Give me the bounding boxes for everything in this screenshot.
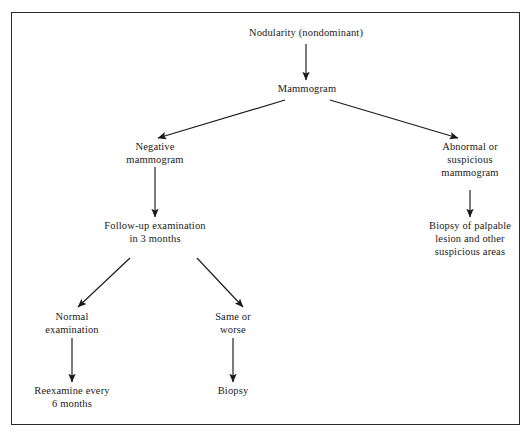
flow-node-line: Same or bbox=[215, 311, 251, 322]
flow-arrow-followup-to-normal bbox=[78, 258, 130, 307]
flow-node-line: Nodularity (nondominant) bbox=[249, 27, 363, 39]
flow-node-normal-exam: Normalexamination bbox=[45, 311, 99, 335]
flow-node-line: lesion and other bbox=[435, 233, 505, 244]
flow-node-line: Mammogram bbox=[278, 83, 337, 94]
flow-node-line: worse bbox=[220, 324, 246, 335]
flow-arrow-mammogram-to-abnormal bbox=[330, 100, 458, 138]
flow-node-line: Reexamine every bbox=[34, 385, 110, 396]
flow-node-line: Biopsy bbox=[218, 385, 249, 396]
flow-node-line: mammogram bbox=[441, 167, 498, 178]
flow-node-followup: Follow-up examinationin 3 months bbox=[104, 220, 206, 244]
flow-node-line: Negative bbox=[135, 141, 174, 152]
flow-edges bbox=[72, 44, 470, 382]
flow-node-line: suspicious bbox=[447, 154, 492, 165]
flow-node-biopsy-palpable: Biopsy of palpablelesion and othersuspic… bbox=[429, 220, 511, 257]
flow-node-line: examination bbox=[45, 324, 99, 335]
flow-node-line: mammogram bbox=[126, 154, 183, 165]
flow-node-line: Abnormal or bbox=[442, 141, 498, 152]
flow-node-mammogram: Mammogram bbox=[278, 83, 337, 94]
flow-node-biopsy: Biopsy bbox=[218, 385, 249, 396]
flow-arrow-followup-to-same-or-worse bbox=[197, 258, 243, 307]
flow-nodes: Nodularity (nondominant)MammogramNegativ… bbox=[34, 27, 511, 409]
flowchart-diagram: Nodularity (nondominant)MammogramNegativ… bbox=[0, 0, 528, 438]
flow-node-line: Biopsy of palpable bbox=[429, 220, 511, 231]
flow-node-line: suspicious areas bbox=[435, 246, 505, 257]
flow-node-line: 6 months bbox=[52, 398, 92, 409]
flow-node-line: Follow-up examination bbox=[104, 220, 206, 231]
flow-arrow-mammogram-to-negative bbox=[158, 100, 285, 138]
flow-node-nodularity: Nodularity (nondominant) bbox=[249, 27, 363, 39]
figure-canvas: Nodularity (nondominant)MammogramNegativ… bbox=[0, 0, 528, 438]
flow-node-same-or-worse: Same orworse bbox=[215, 311, 251, 335]
flow-node-abnormal-mammogram: Abnormal orsuspiciousmammogram bbox=[441, 141, 498, 178]
flow-node-negative-mammogram: Negativemammogram bbox=[126, 141, 183, 165]
flow-node-line: Normal bbox=[56, 311, 89, 322]
flow-node-line: in 3 months bbox=[129, 233, 180, 244]
flow-node-reexamine: Reexamine every6 months bbox=[34, 385, 110, 409]
